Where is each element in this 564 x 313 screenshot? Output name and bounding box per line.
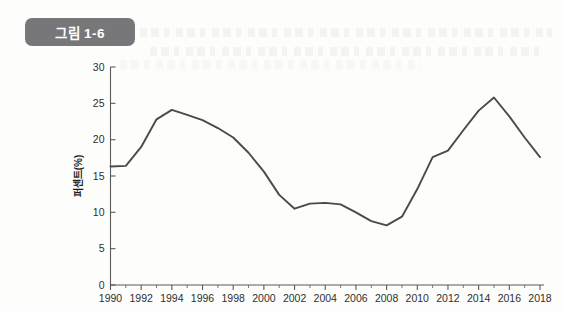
x-tick-label: 2016 xyxy=(498,292,522,304)
figure-container: 그림 1-6 051015202530 19901992199419961998… xyxy=(0,0,564,313)
y-tick-label: 15 xyxy=(93,170,105,182)
x-tick-label: 1994 xyxy=(160,292,184,304)
y-tick-label: 25 xyxy=(93,97,105,109)
x-tick-label: 2012 xyxy=(436,292,460,304)
x-tick-label: 2010 xyxy=(406,292,430,304)
x-tick-label: 2008 xyxy=(375,292,399,304)
x-tick-label: 1992 xyxy=(129,292,153,304)
x-tick-label: 2004 xyxy=(314,292,338,304)
x-axis: 1990199219941996199820002002200420062008… xyxy=(99,285,552,304)
line-chart-svg: 051015202530 199019921994199619982000200… xyxy=(0,0,564,313)
x-tick-label: 2002 xyxy=(283,292,307,304)
x-tick-label: 2006 xyxy=(344,292,368,304)
y-axis: 051015202530 xyxy=(93,61,116,291)
x-tick-label: 2018 xyxy=(528,292,552,304)
data-series-line xyxy=(111,98,541,226)
y-axis-title: 퍼센트(%) xyxy=(72,155,84,198)
y-tick-label: 10 xyxy=(93,206,105,218)
chart-plot-area: 051015202530 199019921994199619982000200… xyxy=(0,0,564,313)
y-axis-title-group: 퍼센트(%) xyxy=(72,155,84,198)
y-tick-label: 20 xyxy=(93,133,105,145)
data-series-group xyxy=(111,98,541,226)
x-tick-label: 2000 xyxy=(252,292,276,304)
y-tick-label: 5 xyxy=(99,242,105,254)
y-tick-label: 0 xyxy=(99,279,105,291)
x-tick-label: 1998 xyxy=(222,292,246,304)
x-tick-label: 1996 xyxy=(191,292,215,304)
y-tick-label: 30 xyxy=(93,61,105,73)
x-tick-label: 2014 xyxy=(467,292,491,304)
x-tick-label: 1990 xyxy=(99,292,123,304)
